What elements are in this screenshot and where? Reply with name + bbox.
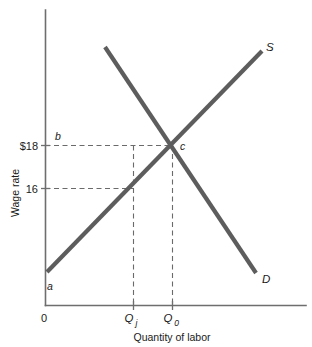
point-label-a: a [47, 280, 53, 292]
chart-canvas: $18 16 0 Q j Q 0 a b c S D Wage rate Qua… [0, 0, 312, 347]
y-tick-label-16: 16 [26, 183, 38, 195]
supply-demand-chart: $18 16 0 Q j Q 0 a b c S D Wage rate Qua… [0, 0, 312, 347]
x-tick-label-q0: Q [164, 312, 173, 324]
point-label-c: c [180, 140, 186, 152]
x-tick-label-qj: Q [125, 312, 134, 324]
axes-group [46, 10, 307, 306]
x-tick-label-qj-subscript: j [135, 318, 139, 328]
x-tick-label-q0-subscript: 0 [174, 318, 179, 328]
x-tick-label-qj-group: Q j [125, 312, 139, 328]
demand-curve-label: D [262, 273, 270, 285]
supply-curve-label: S [266, 41, 274, 53]
y-axis-title: Wage rate [9, 169, 21, 217]
y-tick-label-18: $18 [20, 140, 38, 152]
point-label-b: b [55, 130, 61, 142]
curves-group [47, 47, 262, 273]
x-axis-title: Quantity of labor [133, 331, 211, 343]
x-tick-label-origin: 0 [41, 312, 47, 324]
guide-lines-group [46, 146, 173, 306]
supply-curve [47, 51, 262, 272]
x-tick-label-q0-group: Q 0 [164, 312, 180, 328]
